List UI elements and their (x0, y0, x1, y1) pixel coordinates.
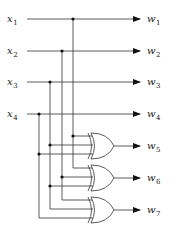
junction-dot (60, 175, 63, 178)
gates (88, 133, 114, 223)
output-label-w5: w5 (147, 140, 161, 154)
output-label-w2-subscript: 2 (156, 51, 160, 59)
input-label-x4-subscript: 4 (13, 114, 18, 122)
xor-gate-w7 (91, 197, 114, 223)
junction-dot (71, 134, 74, 137)
output-label-w4-subscript: 4 (156, 114, 161, 122)
output-label-w7-subscript: 7 (156, 210, 160, 218)
output-label-w1-subscript: 1 (156, 19, 160, 27)
junction-dot (37, 152, 40, 155)
junction-dot-x2 (60, 49, 63, 52)
input-label-x4: x4 (7, 108, 18, 122)
wires (27, 17, 140, 218)
output-label-w1: w1 (147, 13, 161, 27)
input-label-x3: x3 (7, 76, 18, 90)
input-label-x1: x1 (7, 13, 18, 27)
output-label-w3: w3 (147, 76, 161, 90)
output-label-w5-subscript: 5 (156, 146, 160, 154)
labels: x1x2x3x4w1w2w3w4w5w6w7 (7, 13, 161, 218)
junction-dot-x1 (71, 17, 74, 20)
xor-back-curve (88, 197, 92, 223)
input-label-x2-subscript: 2 (13, 51, 17, 59)
output-label-w6-subscript: 6 (156, 178, 161, 186)
junction-dot (48, 184, 51, 187)
xor-gate-w6 (91, 165, 114, 191)
output-label-w6: w6 (147, 172, 161, 186)
junction-dot (48, 143, 51, 146)
output-label-w2: w2 (147, 45, 161, 59)
xor-gate-w5 (91, 133, 114, 159)
output-label-w3-subscript: 3 (156, 82, 160, 90)
junction-dot-x4 (37, 112, 40, 115)
xor-back-curve (88, 133, 92, 159)
input-label-x2: x2 (7, 45, 18, 59)
output-label-w4: w4 (147, 108, 161, 122)
circuit-diagram: x1x2x3x4w1w2w3w4w5w6w7 (0, 0, 170, 238)
junction-dot-x3 (48, 80, 51, 83)
output-label-w7: w7 (147, 204, 161, 218)
input-label-x3-subscript: 3 (13, 82, 17, 90)
input-label-x1-subscript: 1 (13, 19, 17, 27)
xor-back-curve (88, 165, 92, 191)
